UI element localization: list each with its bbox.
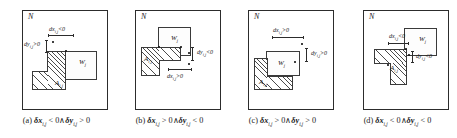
- annot-dy-d: dyi,j<0: [416, 53, 432, 62]
- region-n-label-d: N: [369, 13, 374, 21]
- panel-a: N Wj Ai,j dxi,j<0 dyi,j>0 (a) δxi,j < 0∧…: [0, 0, 113, 138]
- box-wj-label-b: Wj: [171, 35, 178, 44]
- region-n-label-c: N: [254, 13, 259, 21]
- region-n-label-a: N: [28, 13, 33, 21]
- region-n-frame-c: N Wj Ai,j dxi,j>0 dyi,j>0: [248, 10, 334, 110]
- caption-d: (d) δxi,j < 0∧δyi,j < 0: [341, 116, 454, 129]
- box-aij-label-c: Ai,j: [259, 79, 267, 88]
- panel-c: N Wj Ai,j dxi,j>0 dyi,j>0 (c) δxi,j > 0∧…: [226, 0, 339, 138]
- annot-dy-c: dyi,j>0: [311, 50, 327, 59]
- region-n-frame-d: N Wj Ai,j dxi,j<0 dyi,j<0: [363, 10, 449, 110]
- annot-dx-d: dxi,j<0: [389, 33, 405, 42]
- box-aij-b-arm: [159, 47, 181, 61]
- anchor-dot-a-2: [65, 50, 67, 52]
- box-aij-a-foot: [32, 71, 48, 90]
- box-aij-label-d: Ai,j: [390, 65, 398, 74]
- annot-dx-b: dxi,j>0: [167, 73, 183, 82]
- anchor-dot-d-1: [387, 64, 389, 66]
- anchor-dot-d-2: [405, 48, 407, 50]
- box-wj-label-d: Wj: [419, 36, 426, 45]
- figure-four-panel-overlap-cases: N Wj Ai,j dxi,j<0 dyi,j>0 (a) δxi,j < 0∧…: [0, 0, 457, 138]
- annot-dx-bar-a: [48, 34, 74, 37]
- panel-d: N Wj Ai,j dxi,j<0 dyi,j<0 (d) δxi,j < 0∧…: [341, 0, 454, 138]
- annot-dx-c: dxi,j>0: [273, 27, 289, 36]
- box-aij-label-b: Ai,j: [144, 56, 152, 65]
- anchor-dot-c-2: [294, 61, 296, 63]
- box-wj-label-c: Wj: [278, 60, 285, 69]
- box-aij-d-arm: [374, 49, 407, 64]
- annot-dy-a: dyi,j>0: [24, 41, 40, 50]
- anchor-dot-a-1: [52, 41, 54, 43]
- caption-a: (a) δxi,j < 0∧δyi,j > 0: [0, 116, 113, 129]
- anchor-dot-b-2: [180, 46, 182, 48]
- box-aij-label-a: Ai,j: [55, 80, 63, 89]
- annot-dx-bar-b: [168, 68, 192, 71]
- caption-b: (b) δxi,j > 0∧δyi,j < 0: [113, 116, 226, 129]
- annot-dx-bar-d: [388, 42, 409, 45]
- anchor-dot-b-3: [188, 52, 190, 54]
- annot-dy-bar-a: [45, 40, 48, 53]
- box-aij-c-bottom: [267, 76, 293, 90]
- box-wj-label-a: Wj: [79, 59, 86, 68]
- region-n-label-b: N: [141, 13, 146, 21]
- panel-b: N Wj Ai,j dyi,j<0 dxi,j>0 (b) δxi,j > 0∧…: [113, 0, 226, 138]
- annot-dy-bar-b: [191, 47, 194, 61]
- annot-dy-bar-d: [411, 51, 414, 63]
- annot-dy-bar-c: [305, 48, 308, 62]
- anchor-dot-c-1: [301, 43, 303, 45]
- annot-dy-b: dyi,j<0: [197, 49, 213, 58]
- region-n-frame-a: N Wj Ai,j dxi,j<0 dyi,j>0: [22, 10, 108, 110]
- anchor-dot-d-3: [408, 54, 410, 56]
- anchor-dot-b-4: [188, 63, 190, 65]
- anchor-dot-b-1: [158, 46, 160, 48]
- region-n-frame-b: N Wj Ai,j dyi,j<0 dxi,j>0: [135, 10, 221, 110]
- annot-dx-bar-c: [272, 36, 304, 39]
- caption-c: (c) δxi,j > 0∧δyi,j > 0: [226, 116, 339, 129]
